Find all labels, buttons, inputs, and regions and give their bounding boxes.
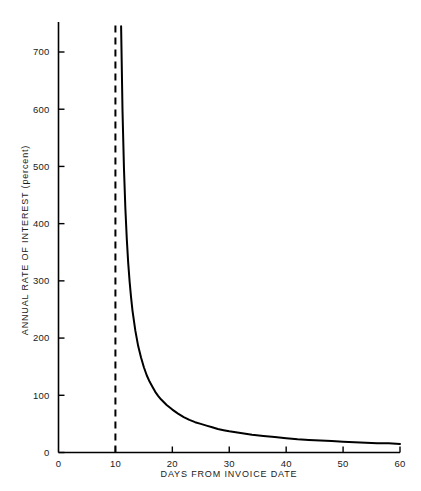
x-axis-tick-labels: 0102030405060	[56, 458, 406, 469]
axis-lines	[59, 22, 401, 453]
interest-rate-line-chart: 0100200300400500600700 0102030405060 DAY…	[0, 0, 421, 491]
x-tick-label: 60	[395, 458, 406, 469]
y-tick-label: 700	[33, 46, 49, 57]
x-tick-label: 40	[281, 458, 292, 469]
x-axis-title: DAYS FROM INVOICE DATE	[161, 469, 298, 479]
y-tick-label: 100	[33, 390, 49, 401]
y-tick-label: 200	[33, 332, 49, 343]
y-axis-title: ANNUAL RATE OF INTEREST (percent)	[20, 145, 30, 335]
x-tick-label: 0	[56, 458, 61, 469]
x-tick-label: 10	[110, 458, 121, 469]
y-axis-tick-labels: 0100200300400500600700	[33, 46, 49, 458]
x-tick-label: 30	[224, 458, 235, 469]
x-tick-label: 50	[338, 458, 349, 469]
chart-figure: 0100200300400500600700 0102030405060 DAY…	[0, 0, 421, 491]
y-tick-label: 300	[33, 275, 49, 286]
y-tick-label: 400	[33, 218, 49, 229]
y-tick-label: 500	[33, 161, 49, 172]
y-axis-ticks	[59, 52, 65, 453]
y-tick-label: 600	[33, 104, 49, 115]
x-tick-label: 20	[167, 458, 178, 469]
x-axis-ticks	[115, 447, 400, 453]
y-tick-label: 0	[44, 447, 49, 458]
interest-rate-curve	[121, 26, 400, 444]
